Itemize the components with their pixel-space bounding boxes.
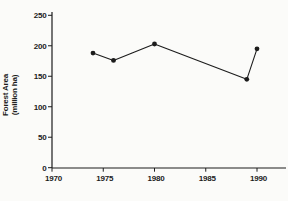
- data-line: [93, 44, 257, 79]
- x-tick-label: 1980: [148, 174, 166, 183]
- y-tick-label: 150: [34, 72, 47, 81]
- data-point: [255, 46, 260, 51]
- x-tick-label: 1970: [45, 174, 63, 183]
- x-tick-label: 1990: [250, 174, 268, 183]
- chart-canvas: Forest Area (million ha) 050100150200250…: [0, 0, 288, 201]
- y-tick-label: 250: [34, 11, 47, 20]
- y-tick-label: 50: [38, 133, 47, 142]
- y-tick-label: 200: [34, 42, 47, 51]
- data-point: [111, 58, 116, 63]
- forest-area-line-chart: Forest Area (million ha) 050100150200250…: [0, 0, 288, 201]
- x-axis-ticks: 19701975198019851990: [45, 168, 268, 183]
- data-point: [152, 42, 157, 47]
- data-series-forest-area: [91, 42, 260, 82]
- y-axis-title-line2: (million ha): [10, 74, 19, 115]
- x-tick-label: 1985: [199, 174, 217, 183]
- x-tick-label: 1975: [96, 174, 114, 183]
- y-axis-ticks: 050100150200250: [34, 11, 52, 172]
- data-point: [91, 51, 96, 56]
- data-point: [244, 77, 249, 82]
- y-tick-label: 0: [42, 164, 47, 173]
- y-tick-label: 100: [34, 103, 47, 112]
- y-axis-title-line1: Forest Area: [1, 73, 10, 116]
